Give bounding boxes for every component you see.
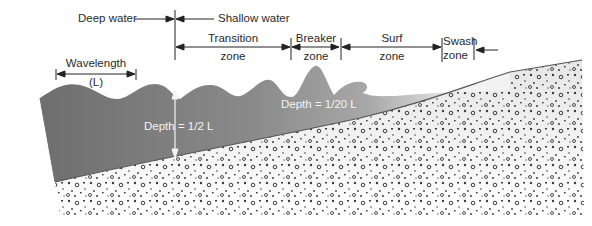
depth-shallow-label: Depth = 1/20 L bbox=[281, 99, 357, 111]
wave-zone-diagram: Deep water Shallow water Transition zone… bbox=[0, 0, 592, 226]
transition-zone-label-1: Transition bbox=[208, 33, 258, 45]
deep-shallow-divider bbox=[135, 10, 214, 60]
surf-zone-label-2: zone bbox=[380, 51, 405, 63]
wavelength-symbol: (L) bbox=[89, 77, 103, 89]
depth-deep-label: Depth = 1/2 L bbox=[144, 121, 213, 133]
shallow-water-label: Shallow water bbox=[218, 13, 290, 25]
swash-zone-label-2: zone bbox=[443, 50, 468, 62]
breaker-zone-label-1: Breaker bbox=[296, 33, 336, 45]
breaker-zone-label-2: zone bbox=[304, 51, 329, 63]
surf-zone-label-1: Surf bbox=[381, 33, 402, 45]
wavelength-label: Wavelength bbox=[66, 58, 126, 70]
swash-zone-label-1: Swash bbox=[443, 36, 478, 48]
transition-zone-label-2: zone bbox=[221, 51, 246, 63]
deep-water-label: Deep water bbox=[78, 13, 137, 25]
